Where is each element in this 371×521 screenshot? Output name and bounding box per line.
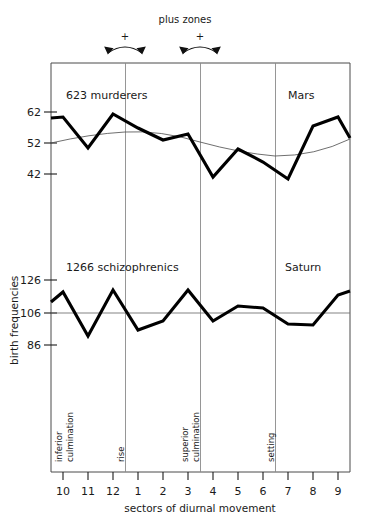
chart-canvas: plus zones + + 623 murderers Mars (0, 0, 371, 521)
plus-sign-1: + (121, 31, 129, 42)
figure-root: plus zones + + 623 murderers Mars (0, 0, 371, 521)
bottom-tick-label-106: 106 (20, 307, 41, 320)
event-label-inferior-culmination: culmination (65, 412, 75, 462)
y-axis-title: birth frequencies (8, 276, 20, 365)
event-label-superior: superior (180, 427, 190, 462)
bottom-tick-label-126: 126 (20, 274, 41, 287)
x-axis-title: sectors of diurnal movement (124, 502, 275, 514)
bottom-planet-label: Saturn (285, 261, 321, 274)
x-tick-label-11: 9 (335, 485, 342, 498)
event-label-setting: setting (266, 433, 276, 462)
bottom-tick-label-86: 86 (27, 339, 41, 352)
x-tick-label-1: 11 (81, 485, 95, 498)
event-label-inferior: inferior (54, 431, 64, 462)
top-planet-label: Mars (288, 89, 315, 102)
top-tick-label-62: 62 (27, 106, 41, 119)
x-tick-label-8: 6 (260, 485, 267, 498)
top-tick-label-42: 42 (27, 168, 41, 181)
x-tick-label-0: 10 (56, 485, 70, 498)
x-tick-label-10: 8 (310, 485, 317, 498)
x-tick-label-9: 7 (285, 485, 292, 498)
x-tick-label-3: 1 (135, 485, 142, 498)
x-tick-label-6: 4 (210, 485, 217, 498)
top-tick-label-52: 52 (27, 137, 41, 150)
x-tick-label-5: 3 (185, 485, 192, 498)
plus-zones-label: plus zones (159, 14, 212, 25)
top-sample-label: 623 murderers (66, 89, 148, 102)
bottom-sample-label: 1266 schizophrenics (66, 261, 179, 274)
x-tick-label-7: 5 (235, 485, 242, 498)
plus-sign-2: + (196, 31, 204, 42)
x-tick-label-4: 2 (160, 485, 167, 498)
event-label-rise: rise (116, 446, 126, 462)
x-tick-label-2: 12 (106, 485, 120, 498)
event-label-superior-culmination: culmination (191, 412, 201, 462)
